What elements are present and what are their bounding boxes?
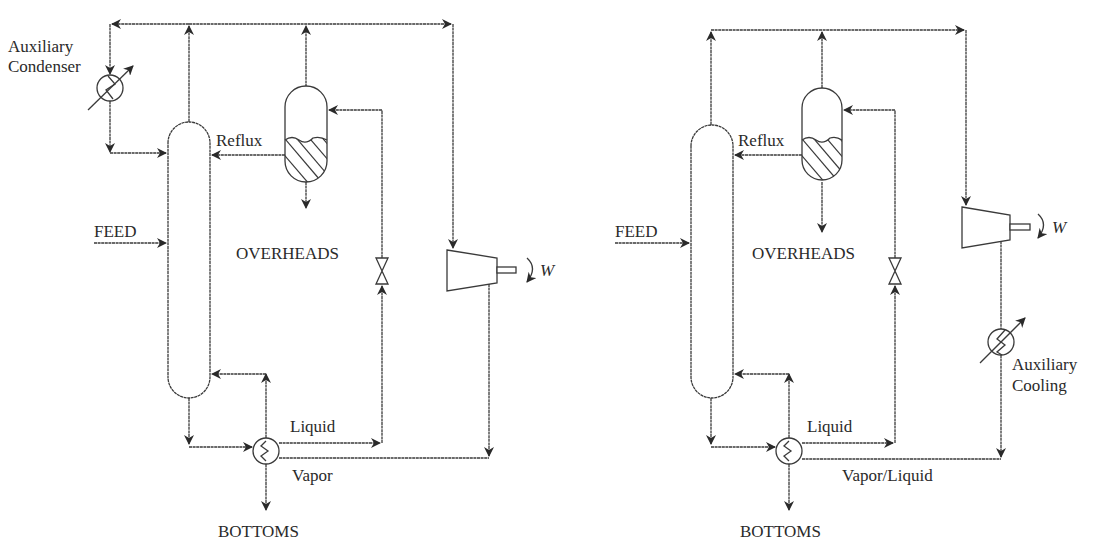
aux-condenser-label-1: Auxiliary	[8, 37, 74, 56]
feed-label-right: FEED	[615, 222, 658, 241]
throttle-valve-right	[889, 258, 901, 284]
left-diagram: Auxiliary Condenser FEED Reflux OVERHEAD…	[8, 24, 556, 541]
distillation-column	[168, 122, 210, 398]
reboiler	[253, 438, 279, 464]
reboiler-right	[776, 438, 802, 464]
compressor	[447, 250, 533, 291]
bottoms-label: BOTTOMS	[218, 522, 299, 541]
overheads-label-right: OVERHEADS	[752, 244, 855, 263]
flowsheet-canvas: Auxiliary Condenser FEED Reflux OVERHEAD…	[0, 0, 1093, 554]
aux-cooling-label-1: Auxiliary	[1012, 355, 1078, 374]
throttle-valve	[376, 258, 388, 284]
overheads-label: OVERHEADS	[236, 244, 339, 263]
work-label-right: W	[1052, 218, 1068, 237]
vapor-liquid-label: Vapor/Liquid	[842, 466, 933, 485]
right-diagram: FEED Reflux OVERHEADS	[615, 30, 1078, 541]
reflux-drum	[280, 86, 338, 185]
distillation-column-right	[691, 125, 733, 398]
vapor-label: Vapor	[292, 466, 333, 485]
work-label: W	[540, 261, 556, 280]
liquid-label: Liquid	[290, 417, 336, 436]
compressor-right	[962, 207, 1044, 248]
overhead-vapor-lines	[112, 24, 451, 122]
aux-cooling-label-2: Cooling	[1012, 376, 1067, 395]
feed-label: FEED	[94, 222, 137, 241]
reflux-label-right: Reflux	[738, 131, 785, 150]
aux-condenser-label-2: Condenser	[8, 57, 81, 76]
reflux-drum-right	[797, 88, 855, 185]
bottoms-label-right: BOTTOMS	[740, 522, 821, 541]
liquid-label-right: Liquid	[807, 417, 853, 436]
reflux-label: Reflux	[216, 131, 263, 150]
